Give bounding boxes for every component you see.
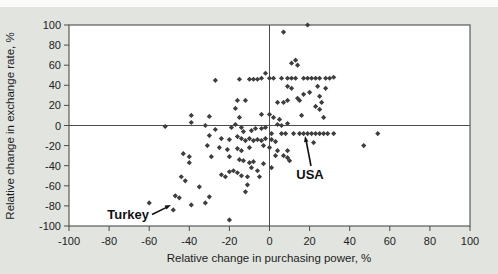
y-tick-label: 40 [49, 79, 61, 91]
annotation-usa-label: USA [296, 167, 324, 182]
annotation-turkey-label: Turkey [107, 207, 149, 222]
y-tick-label: 60 [49, 59, 61, 71]
x-tick-label: 0 [266, 235, 272, 247]
x-tick-label: -100 [58, 235, 80, 247]
y-tick-label: -100 [39, 220, 61, 232]
x-axis-title: Relative change in purchasing power, % [167, 252, 372, 264]
y-tick-label: -80 [45, 200, 61, 212]
y-tick-label: 80 [49, 39, 61, 51]
x-tick-label: -20 [221, 235, 237, 247]
y-tick-label: 20 [49, 99, 61, 111]
y-tick-label: 0 [55, 120, 61, 132]
x-tick-label: -60 [141, 235, 157, 247]
y-tick-label: -60 [45, 180, 61, 192]
y-axis-title: Relative change in exchange rate, % [4, 32, 16, 219]
x-tick-label: -40 [181, 235, 197, 247]
x-tick-label: 20 [303, 235, 315, 247]
y-tick-label: -40 [45, 160, 61, 172]
figure-top-margin [0, 0, 498, 7]
y-tick-label: -20 [45, 140, 61, 152]
x-tick-label: 60 [384, 235, 396, 247]
x-tick-label: -80 [101, 235, 117, 247]
scatter-chart: -100-80-60-40-20020406080100-100-80-60-4… [0, 0, 498, 274]
x-tick-label: 100 [461, 235, 479, 247]
scatter-figure: -100-80-60-40-20020406080100-100-80-60-4… [0, 0, 498, 274]
x-tick-label: 80 [424, 235, 436, 247]
x-tick-label: 40 [344, 235, 356, 247]
y-tick-label: 100 [43, 19, 61, 31]
